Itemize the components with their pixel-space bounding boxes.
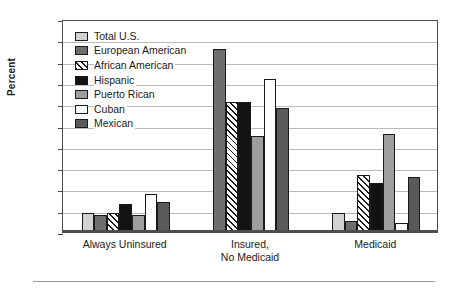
bar-group	[188, 21, 313, 232]
bar[interactable]	[264, 79, 277, 232]
bar[interactable]	[276, 108, 289, 232]
bar[interactable]	[82, 213, 95, 232]
chart-legend: Total U.S.European AmericanAfrican Ameri…	[75, 29, 188, 131]
bar[interactable]	[145, 194, 158, 232]
plot-area: Total U.S.European AmericanAfrican Ameri…	[62, 20, 438, 233]
bar[interactable]	[107, 213, 120, 232]
x-axis-category-label: Always Uninsured	[62, 238, 187, 251]
bar[interactable]	[119, 204, 132, 232]
bar-group	[314, 21, 439, 232]
legend-item[interactable]: African American	[75, 58, 188, 73]
legend-swatch-icon	[75, 105, 88, 114]
legend-item-label: Mexican	[94, 118, 135, 129]
legend-item[interactable]: Cuban	[75, 102, 188, 117]
bar[interactable]	[226, 102, 239, 232]
legend-item[interactable]: Total U.S.	[75, 29, 188, 44]
bar[interactable]	[370, 183, 383, 232]
x-axis-line	[63, 230, 437, 232]
legend-item[interactable]: European American	[75, 44, 188, 59]
legend-swatch-icon	[75, 90, 88, 99]
bar[interactable]	[332, 213, 345, 232]
bar[interactable]	[251, 136, 264, 232]
legend-item-label: Hispanic	[94, 75, 136, 86]
x-axis-category-label: Medicaid	[313, 238, 438, 251]
bar[interactable]	[157, 202, 170, 232]
y-axis-tick-mark	[58, 234, 63, 235]
bar[interactable]	[408, 177, 421, 232]
legend-swatch-icon	[75, 46, 88, 55]
bar[interactable]	[213, 49, 226, 232]
legend-item[interactable]: Hispanic	[75, 73, 188, 88]
legend-swatch-icon	[75, 76, 88, 85]
legend-swatch-icon	[75, 61, 88, 70]
legend-swatch-icon	[75, 119, 88, 128]
x-axis-category-label: Insured, No Medicaid	[187, 238, 312, 263]
bar[interactable]	[383, 134, 396, 232]
bar-chart-figure: Percent 0102030405060708090100 Total U.S…	[0, 0, 465, 288]
legend-swatch-icon	[75, 32, 88, 41]
legend-item-label: African American	[94, 60, 175, 71]
bar[interactable]	[238, 102, 251, 232]
legend-item[interactable]: Puerto Rican	[75, 87, 188, 102]
legend-item-label: Puerto Rican	[94, 89, 157, 100]
legend-item-label: Cuban	[94, 104, 127, 115]
bar[interactable]	[357, 175, 370, 233]
legend-item-label: Total U.S.	[94, 31, 142, 42]
legend-item[interactable]: Mexican	[75, 117, 188, 132]
y-axis-title: Percent	[6, 58, 17, 96]
bottom-divider-rule	[33, 281, 435, 282]
legend-item-label: European American	[94, 45, 188, 56]
